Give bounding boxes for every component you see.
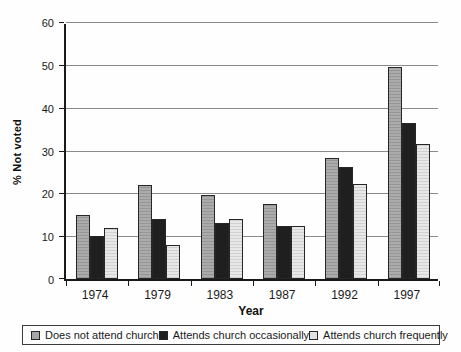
x-tick xyxy=(439,281,440,286)
bar-1992-series-2 xyxy=(353,184,367,279)
y-tick-label: 40 xyxy=(20,104,54,115)
bar-1992-series-1 xyxy=(339,167,353,279)
bar-1979-series-2 xyxy=(166,245,180,279)
y-tick-label: 50 xyxy=(20,61,54,72)
bar-chart-figure: % Not voted 0102030405060 19741979198319… xyxy=(0,0,461,352)
y-tick xyxy=(59,278,64,279)
bar-1983-series-0 xyxy=(201,195,215,279)
y-tick xyxy=(59,236,64,237)
bar-1983-series-2 xyxy=(229,219,243,279)
x-tick-label-1979: 1979 xyxy=(126,288,188,302)
legend: Does not attend churchAttends church occ… xyxy=(22,325,440,345)
bar-1987-series-2 xyxy=(291,226,305,279)
plot-area xyxy=(64,24,438,281)
bar-1992-series-0 xyxy=(325,158,339,279)
x-tick xyxy=(315,281,316,286)
bar-1997-series-0 xyxy=(388,67,402,279)
x-tick xyxy=(128,281,129,286)
bar-1987-series-0 xyxy=(263,204,277,279)
bar-1974-series-1 xyxy=(90,236,104,279)
y-tick-label: 20 xyxy=(20,189,54,200)
bar-1974-series-2 xyxy=(104,228,118,279)
bar-1997-series-1 xyxy=(402,123,416,279)
y-tick xyxy=(59,108,64,109)
bar-1979-series-1 xyxy=(152,219,166,279)
gridline-y-50 xyxy=(66,65,438,66)
y-tick xyxy=(59,151,64,152)
bar-1974-series-0 xyxy=(76,215,90,279)
bar-1997-series-2 xyxy=(416,144,430,279)
gridline-y-60 xyxy=(66,22,438,23)
gridline-y-10 xyxy=(66,236,438,237)
legend-swatch-icon xyxy=(159,331,168,340)
bar-1987-series-1 xyxy=(277,226,291,279)
gridline-y-30 xyxy=(66,151,438,152)
x-tick xyxy=(378,281,379,286)
y-tick xyxy=(59,193,64,194)
x-tick-label-1992: 1992 xyxy=(313,288,375,302)
x-tick xyxy=(191,281,192,286)
legend-item-2: Attends church frequently xyxy=(309,329,448,341)
gridline-y-40 xyxy=(66,108,438,109)
x-tick-label-1983: 1983 xyxy=(189,288,251,302)
y-tick xyxy=(59,65,64,66)
x-axis-title: Year xyxy=(64,304,438,318)
bar-1983-series-1 xyxy=(215,223,229,279)
y-tick xyxy=(59,22,64,23)
legend-item-0: Does not attend church xyxy=(31,329,159,341)
x-tick-label-1997: 1997 xyxy=(376,288,438,302)
legend-item-1: Attends church occasionally xyxy=(159,329,309,341)
x-tick-label-1987: 1987 xyxy=(251,288,313,302)
y-tick-label: 60 xyxy=(20,18,54,29)
legend-label: Attends church frequently xyxy=(323,329,448,341)
y-tick-label: 30 xyxy=(20,147,54,158)
bar-1979-series-0 xyxy=(138,185,152,279)
legend-label: Does not attend church xyxy=(45,329,159,341)
y-tick-label: 0 xyxy=(20,275,54,286)
legend-label: Attends church occasionally xyxy=(173,329,309,341)
x-tick xyxy=(66,281,67,286)
legend-swatch-icon xyxy=(31,331,40,340)
x-tick xyxy=(253,281,254,286)
y-tick-label: 10 xyxy=(20,232,54,243)
x-tick-label-1974: 1974 xyxy=(64,288,126,302)
legend-swatch-icon xyxy=(309,331,318,340)
gridline-y-20 xyxy=(66,193,438,194)
